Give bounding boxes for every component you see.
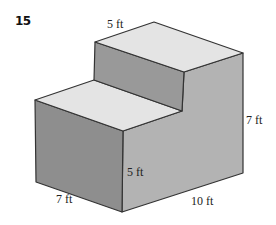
step-solid-figure: 15 5 ft 7 ft 5 ft 7 ft 10 ft: [0, 0, 276, 225]
label-lower-height: 5 ft: [127, 166, 143, 178]
label-top-depth: 5 ft: [107, 18, 123, 30]
label-total-height: 7 ft: [246, 114, 262, 126]
step-solid-drawing: [0, 0, 276, 225]
label-width: 7 ft: [56, 193, 72, 205]
label-length: 10 ft: [191, 195, 213, 207]
